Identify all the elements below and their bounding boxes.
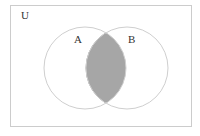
venn-diagram: U A B: [0, 0, 200, 136]
set-b-label: B: [128, 33, 135, 45]
universe-label: U: [21, 9, 29, 21]
set-a-label: A: [74, 33, 82, 45]
